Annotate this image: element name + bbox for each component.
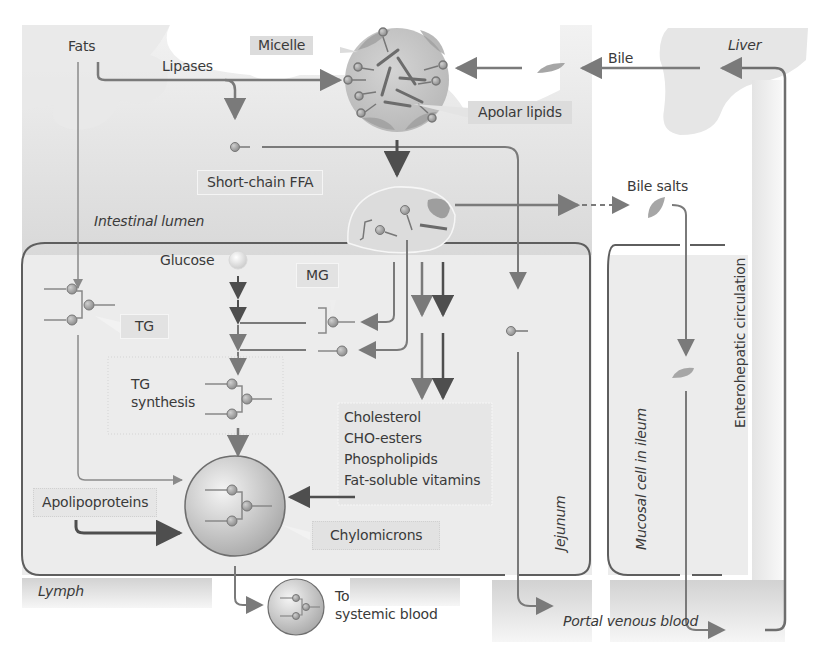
chylomicrons-label: Chylomicrons <box>312 521 440 550</box>
portal-band-left <box>492 580 592 642</box>
apolar-lipids-label: Apolar lipids <box>468 101 572 124</box>
lipases-label: Lipases <box>162 58 213 75</box>
bile-salts-label: Bile salts <box>627 178 688 195</box>
systemic-chylomicron-particle <box>268 579 324 635</box>
enterohepatic-circulation-label: Enterohepatic circulation <box>732 258 749 428</box>
portal-venous-blood-label: Portal venous blood <box>563 613 698 630</box>
fat-absorption-diagram: Fats Lipases Micelle Apolar lipids Bile … <box>0 0 816 651</box>
tg-label: TG <box>120 314 169 339</box>
ileum-region <box>608 255 748 575</box>
fats-label: Fats <box>68 38 95 55</box>
lipid-cholesterol: Cholesterol <box>344 407 480 428</box>
liver-label: Liver <box>728 37 761 54</box>
jejunum-label: Jejunum <box>552 496 569 552</box>
tg-synthesis-label-1: TG <box>131 376 150 393</box>
micelle-label: Micelle <box>250 36 313 55</box>
to-systemic-label-1: To <box>335 588 349 605</box>
glucose-molecule <box>229 251 247 269</box>
chylomicron-particle <box>185 456 285 556</box>
intestinal-lumen-label: Intestinal lumen <box>94 213 204 230</box>
to-systemic-label-2: systemic blood <box>335 606 438 623</box>
short-chain-ffa-label: Short-chain FFA <box>197 170 323 195</box>
lymph-label: Lymph <box>38 583 84 600</box>
lipid-fat-soluble-vitamins: Fat-soluble vitamins <box>344 470 480 491</box>
lipid-cho-esters: CHO-esters <box>344 428 480 449</box>
lipid-phospholipids: Phospholipids <box>344 449 480 470</box>
mg-label: MG <box>296 263 339 288</box>
enterohepatic-band <box>752 80 782 640</box>
tg-synthesis-label-2: synthesis <box>131 394 195 411</box>
portal-band-right <box>610 580 785 642</box>
glucose-label: Glucose <box>160 252 214 269</box>
lipids-list: Cholesterol CHO-esters Phospholipids Fat… <box>344 407 480 491</box>
mucosal-cell-ileum-label: Mucosal cell in ileum <box>633 408 650 550</box>
jejunum-region <box>22 255 592 575</box>
bile-label: Bile <box>608 50 633 67</box>
apolipoproteins-label: Apolipoproteins <box>33 488 157 517</box>
lymph-band-right <box>350 578 460 606</box>
